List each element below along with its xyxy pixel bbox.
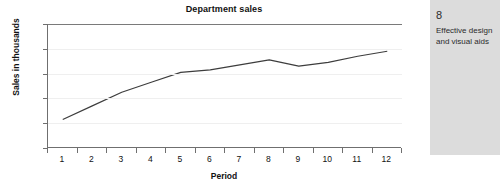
- x-tick-label: 11: [347, 154, 367, 164]
- x-tick-mark: [195, 148, 196, 153]
- plot-area: [47, 24, 401, 148]
- x-tick-mark: [401, 148, 402, 153]
- x-tick-mark: [372, 148, 373, 153]
- x-tick-mark: [136, 148, 137, 153]
- info-panel: 8 Effective design and visual aids: [430, 0, 500, 155]
- x-tick-mark: [313, 148, 314, 153]
- x-tick-mark: [106, 148, 107, 153]
- x-tick-mark: [165, 148, 166, 153]
- x-tick-label: 2: [81, 154, 101, 164]
- gridline: [48, 24, 402, 25]
- x-tick-label: 6: [199, 154, 219, 164]
- x-tick-label: 4: [140, 154, 160, 164]
- x-tick-mark: [283, 148, 284, 153]
- y-tick-mark: [43, 24, 47, 25]
- panel-number: 8: [436, 8, 500, 22]
- gridline: [48, 98, 402, 99]
- x-tick-mark: [77, 148, 78, 153]
- series-line: [48, 24, 402, 148]
- x-tick-label: 5: [170, 154, 190, 164]
- x-tick-label: 9: [288, 154, 308, 164]
- y-axis-title: Sales in thousands: [11, 0, 21, 117]
- gridline: [48, 123, 402, 124]
- x-tick-mark: [254, 148, 255, 153]
- y-tick-mark: [43, 74, 47, 75]
- x-axis-title: Period: [47, 171, 401, 181]
- y-tick-mark: [43, 98, 47, 99]
- x-tick-label: 8: [258, 154, 278, 164]
- gridline: [48, 49, 402, 50]
- x-tick-mark: [47, 148, 48, 153]
- x-tick-label: 12: [376, 154, 396, 164]
- x-tick-mark: [224, 148, 225, 153]
- gridline: [48, 74, 402, 75]
- x-tick-label: 7: [229, 154, 249, 164]
- x-tick-label: 10: [317, 154, 337, 164]
- y-tick-mark: [43, 49, 47, 50]
- panel-caption: Effective design and visual aids: [436, 25, 500, 47]
- x-tick-label: 1: [52, 154, 72, 164]
- x-tick-label: 3: [111, 154, 131, 164]
- chart-region: Department sales Sales in thousands 0204…: [0, 0, 420, 182]
- y-tick-mark: [43, 123, 47, 124]
- x-tick-mark: [342, 148, 343, 153]
- chart-title: Department sales: [47, 4, 401, 14]
